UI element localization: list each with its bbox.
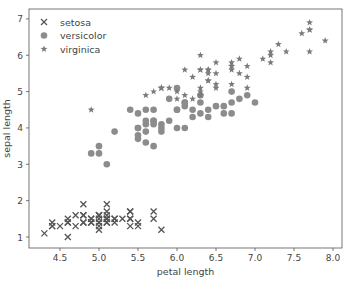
versicolor-point — [135, 136, 142, 143]
versicolor-point — [221, 110, 228, 117]
versicolor-point — [96, 150, 103, 157]
versicolor-point — [143, 139, 150, 146]
y-tick-label: 5 — [17, 87, 23, 97]
x-tick-label: 7.5 — [287, 253, 301, 263]
versicolor-point — [150, 143, 157, 150]
legend-label-setosa: setosa — [60, 17, 91, 28]
y-tick-label: 4 — [17, 123, 23, 133]
versicolor-point — [197, 110, 204, 117]
versicolor-point — [143, 128, 150, 135]
x-tick-label: 6.0 — [170, 253, 185, 263]
legend-label-versicolor: versicolor — [60, 30, 106, 41]
versicolor-point — [158, 125, 165, 132]
x-tick-label: 4.5 — [53, 253, 67, 263]
versicolor-point — [150, 121, 157, 128]
versicolor-point — [182, 103, 189, 110]
versicolor-point — [135, 125, 142, 132]
versicolor-point — [104, 161, 111, 168]
y-axis-label: sepal length — [1, 99, 12, 158]
y-tick-label: 1 — [17, 233, 23, 243]
x-tick-label: 5.5 — [131, 253, 145, 263]
y-tick-label: 3 — [17, 160, 23, 170]
versicolor-point — [174, 106, 181, 113]
y-tick-label: 6 — [17, 51, 23, 61]
legend-marker-versicolor — [41, 32, 48, 39]
versicolor-point — [150, 106, 157, 113]
versicolor-point — [111, 128, 118, 135]
versicolor-point — [244, 92, 251, 99]
legend: setosaversicolorvirginica — [33, 12, 107, 56]
y-tick-label: 2 — [17, 196, 23, 206]
versicolor-point — [189, 114, 196, 121]
versicolor-point — [205, 106, 212, 113]
versicolor-point — [166, 117, 173, 124]
x-tick-label: 5.0 — [92, 253, 107, 263]
versicolor-point — [189, 106, 196, 113]
versicolor-point — [228, 110, 235, 117]
legend-label-virginica: virginica — [60, 44, 100, 55]
versicolor-point — [205, 114, 212, 121]
versicolor-point — [143, 106, 150, 113]
x-tick-label: 6.5 — [209, 253, 223, 263]
versicolor-point — [213, 103, 220, 110]
versicolor-point — [88, 150, 95, 157]
versicolor-point — [221, 103, 228, 110]
versicolor-point — [252, 99, 259, 106]
scatter-chart: 4.55.05.56.06.57.07.58.0 1234567 petal l… — [0, 0, 349, 286]
versicolor-point — [127, 106, 134, 113]
x-axis-label: petal length — [157, 266, 214, 277]
versicolor-point — [182, 125, 189, 132]
x-tick-label: 7.0 — [248, 253, 263, 263]
y-tick-label: 7 — [17, 14, 23, 24]
versicolor-point — [96, 143, 103, 150]
versicolor-point — [166, 96, 173, 103]
versicolor-point — [228, 88, 235, 95]
versicolor-point — [236, 96, 243, 103]
versicolor-point — [143, 117, 150, 124]
versicolor-point — [135, 110, 142, 117]
versicolor-point — [197, 99, 204, 106]
versicolor-point — [174, 125, 181, 132]
versicolor-point — [228, 99, 235, 106]
x-tick-label: 8.0 — [326, 253, 341, 263]
